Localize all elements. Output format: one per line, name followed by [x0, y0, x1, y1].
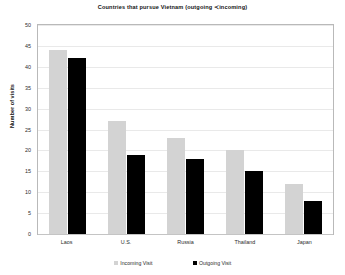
y-axis-tick-label: 50	[25, 22, 31, 28]
x-axis-tick-label: Japan	[275, 239, 334, 245]
y-axis-tick-label: 0	[28, 231, 31, 237]
bar-incoming-visit	[108, 121, 126, 234]
x-axis-tick-label: U.S.	[96, 239, 155, 245]
legend-swatch-icon	[114, 261, 118, 265]
bar-chart-figure: Countries that pursue Vietnam (outgoing …	[0, 0, 345, 275]
y-axis-tick-label: 45	[25, 43, 31, 49]
y-axis-tick-label: 35	[25, 85, 31, 91]
y-axis-tick-label: 40	[25, 64, 31, 70]
bar-outgoing-visit	[186, 159, 204, 234]
bar-group	[97, 25, 156, 234]
y-axis-tick-label: 15	[25, 168, 31, 174]
gridline	[38, 234, 333, 235]
y-axis-tick-label: 20	[25, 147, 31, 153]
bar-group	[274, 25, 333, 234]
legend-swatch-icon	[193, 261, 197, 265]
y-axis-tick-labels: 50454035302520151050	[0, 24, 35, 235]
x-axis-tick-label: Russia	[156, 239, 215, 245]
bar-outgoing-visit	[304, 201, 322, 234]
bar-group	[38, 25, 97, 234]
bar-incoming-visit	[167, 138, 185, 234]
y-axis-tick-label: 5	[28, 210, 31, 216]
x-axis-tick-labels: LaosU.S.RussiaThailandJapan	[37, 239, 334, 245]
legend-label: Outgoing Visit	[199, 260, 231, 266]
bar-group	[215, 25, 274, 234]
x-axis-tick-label: Thailand	[215, 239, 274, 245]
bar-incoming-visit	[285, 184, 303, 234]
bars-layer	[38, 25, 333, 234]
legend-label: Incoming Visit	[120, 260, 152, 266]
legend-entry: Outgoing Visit	[193, 260, 232, 266]
chart-title: Countries that pursue Vietnam (outgoing …	[0, 4, 345, 10]
plot-area	[37, 24, 334, 235]
bar-group	[156, 25, 215, 234]
chart-legend: Incoming VisitOutgoing Visit	[0, 260, 345, 266]
y-axis-tick-label: 10	[25, 189, 31, 195]
bar-outgoing-visit	[245, 171, 263, 234]
y-axis-tick-label: 30	[25, 106, 31, 112]
legend-entry: Incoming Visit	[114, 260, 153, 266]
y-axis-tick-label: 25	[25, 127, 31, 133]
bar-incoming-visit	[226, 150, 244, 234]
bar-incoming-visit	[49, 50, 67, 234]
x-axis-tick-label: Laos	[37, 239, 96, 245]
bar-outgoing-visit	[127, 155, 145, 234]
bar-outgoing-visit	[68, 58, 86, 234]
